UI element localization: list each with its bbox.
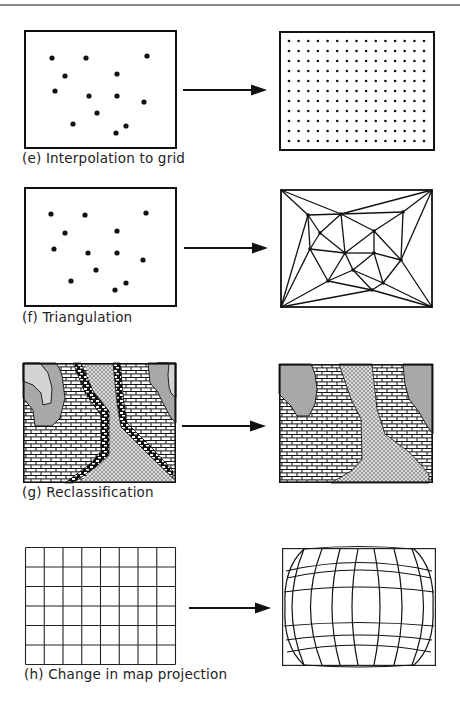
curved-graticule-panel — [282, 548, 436, 666]
reclassification-input-panel — [23, 363, 176, 483]
arrow-right-icon — [184, 242, 270, 254]
reclassification-output-panel — [279, 364, 433, 483]
scattered-points-panel-e — [24, 30, 177, 149]
arrow-right-icon — [182, 420, 268, 432]
arrow-right-icon — [183, 84, 269, 96]
caption-f: (f) Triangulation — [22, 309, 132, 325]
arrow-right-icon — [189, 602, 275, 614]
top-rule — [0, 4, 460, 6]
triangulation-panel-f — [280, 189, 433, 308]
rectangular-graticule-panel — [25, 547, 176, 665]
caption-g: (g) Reclassification — [22, 484, 154, 500]
regular-grid-panel-e — [279, 31, 435, 151]
caption-e: (e) Interpolation to grid — [22, 150, 185, 166]
scattered-points-panel-f — [24, 187, 177, 307]
caption-h: (h) Change in map projection — [24, 666, 227, 682]
